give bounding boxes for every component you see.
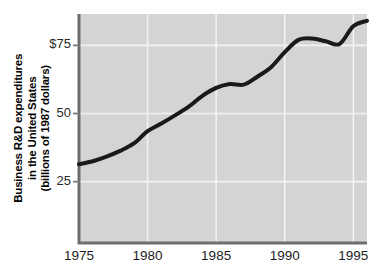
x-tick-label: 1975	[55, 248, 103, 263]
x-tick-label: 1980	[124, 248, 172, 263]
x-tick-label: 1990	[261, 248, 309, 263]
chart-figure: Business R&D expenditures in the United …	[0, 0, 378, 278]
plot-background	[79, 14, 367, 243]
y-tick-label: 50	[37, 105, 71, 120]
x-tick-label: 1985	[192, 248, 240, 263]
y-tick-label: $75	[37, 36, 71, 51]
y-tick-label: 25	[37, 173, 71, 188]
x-tick-label: 1995	[329, 248, 377, 263]
